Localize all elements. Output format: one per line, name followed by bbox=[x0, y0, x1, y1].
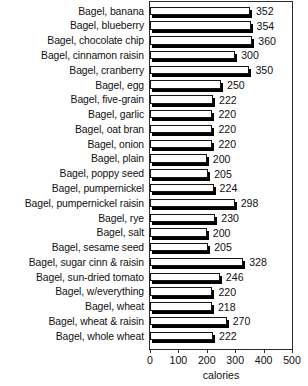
category-label: Bagel, banana bbox=[0, 6, 144, 17]
bar-row: 222 bbox=[150, 331, 292, 346]
bar-value-label: 222 bbox=[219, 94, 237, 106]
category-label: Bagel, pumpernickel raisin bbox=[0, 198, 144, 209]
bar-value-label: 354 bbox=[257, 20, 275, 32]
category-label: Bagel, salt bbox=[0, 227, 144, 238]
category-label: Bagel, garlic bbox=[0, 109, 144, 120]
bar-face bbox=[150, 243, 208, 251]
bar-row: 218 bbox=[150, 302, 292, 317]
bar-value-label: 220 bbox=[218, 138, 236, 150]
bar-value-label: 224 bbox=[220, 182, 238, 194]
category-label: Bagel, onion bbox=[0, 139, 144, 150]
category-label: Bagel, sugar cinn & raisin bbox=[0, 257, 144, 268]
bar-value-label: 300 bbox=[241, 49, 259, 61]
bar-face bbox=[150, 273, 220, 281]
bar-value-label: 205 bbox=[214, 168, 232, 180]
category-label: Bagel, rye bbox=[0, 213, 144, 224]
bar-face bbox=[150, 199, 235, 207]
bar-row: 300 bbox=[150, 51, 292, 66]
bar-face bbox=[150, 66, 249, 74]
bar-face bbox=[150, 258, 243, 266]
x-tick-label: 400 bbox=[255, 354, 273, 366]
bar-row: 352 bbox=[150, 6, 292, 21]
category-label: Bagel, plain bbox=[0, 153, 144, 164]
bar-value-label: 222 bbox=[219, 330, 237, 342]
bar-face bbox=[150, 140, 212, 148]
bar-face bbox=[150, 154, 207, 162]
bar-row: 220 bbox=[150, 124, 292, 139]
bar-row: 220 bbox=[150, 139, 292, 154]
bar-row: 250 bbox=[150, 80, 292, 95]
bar-row: 220 bbox=[150, 110, 292, 125]
bar-row: 224 bbox=[150, 184, 292, 199]
bar-value-label: 220 bbox=[218, 123, 236, 135]
bar-value-label: 218 bbox=[218, 301, 236, 313]
x-tick-label: 0 bbox=[147, 354, 153, 366]
bar-face bbox=[150, 21, 251, 29]
x-tick-label: 200 bbox=[198, 354, 216, 366]
bar-value-label: 298 bbox=[241, 197, 259, 209]
bar-value-label: 250 bbox=[227, 79, 245, 91]
bagel-calories-bar-chart: Bagel, bananaBagel, blueberryBagel, choc… bbox=[0, 0, 308, 386]
bar-value-label: 350 bbox=[255, 64, 273, 76]
bar-face bbox=[150, 7, 250, 15]
bar-value-label: 360 bbox=[258, 35, 276, 47]
bar-row: 222 bbox=[150, 95, 292, 110]
bar-value-label: 352 bbox=[256, 5, 274, 17]
x-tick-mark bbox=[150, 349, 151, 353]
category-axis-labels: Bagel, bananaBagel, blueberryBagel, choc… bbox=[0, 0, 147, 348]
category-label: Bagel, oat bran bbox=[0, 124, 144, 135]
bar-value-label: 200 bbox=[213, 153, 231, 165]
x-tick-label: 100 bbox=[170, 354, 188, 366]
bar-face bbox=[150, 169, 208, 177]
category-label: Bagel, sun-dried tomato bbox=[0, 272, 144, 283]
bar-row: 220 bbox=[150, 287, 292, 302]
category-label: Bagel, blueberry bbox=[0, 20, 144, 31]
category-label: Bagel, cinnamon raisin bbox=[0, 50, 144, 61]
bar-row: 360 bbox=[150, 36, 292, 51]
x-axis: calories 0100200300400500 bbox=[150, 349, 292, 385]
category-label: Bagel, poppy seed bbox=[0, 168, 144, 179]
category-label: Bagel, w/everything bbox=[0, 286, 144, 297]
bar-face bbox=[150, 302, 212, 310]
bar-row: 354 bbox=[150, 21, 292, 36]
bar-face bbox=[150, 80, 221, 88]
bar-value-label: 246 bbox=[226, 271, 244, 283]
bar-row: 230 bbox=[150, 213, 292, 228]
category-label: Bagel, sesame seed bbox=[0, 242, 144, 253]
x-axis-title: calories bbox=[150, 369, 292, 381]
category-label: Bagel, wheat bbox=[0, 301, 144, 312]
bar-value-label: 205 bbox=[214, 241, 232, 253]
bar-face bbox=[150, 214, 215, 222]
x-tick-mark bbox=[264, 349, 265, 353]
bar-row: 205 bbox=[150, 243, 292, 258]
bar-face bbox=[150, 287, 212, 295]
category-label: Bagel, five-grain bbox=[0, 94, 144, 105]
x-tick-mark bbox=[292, 349, 293, 353]
bar-face bbox=[150, 332, 213, 340]
x-tick-mark bbox=[178, 349, 179, 353]
bar-value-label: 220 bbox=[218, 286, 236, 298]
x-tick-label: 500 bbox=[283, 354, 301, 366]
bars-layer: 3523543603003502502222202202202002052242… bbox=[150, 2, 292, 348]
bar-row: 246 bbox=[150, 272, 292, 287]
bar-face bbox=[150, 36, 252, 44]
bar-value-label: 220 bbox=[218, 108, 236, 120]
bar-face bbox=[150, 110, 212, 118]
bar-face bbox=[150, 95, 213, 103]
bar-face bbox=[150, 184, 214, 192]
bar-value-label: 230 bbox=[221, 212, 239, 224]
x-tick-label: 300 bbox=[226, 354, 244, 366]
bar-row: 298 bbox=[150, 198, 292, 213]
bar-row: 205 bbox=[150, 169, 292, 184]
category-label: Bagel, wheat & raisin bbox=[0, 316, 144, 327]
category-label: Bagel, chocolate chip bbox=[0, 35, 144, 46]
bar-value-label: 200 bbox=[213, 227, 231, 239]
bar-row: 200 bbox=[150, 228, 292, 243]
x-tick-mark bbox=[207, 349, 208, 353]
bar-value-label: 328 bbox=[249, 256, 267, 268]
category-label: Bagel, pumpernickel bbox=[0, 183, 144, 194]
bar-row: 350 bbox=[150, 65, 292, 80]
bar-face bbox=[150, 317, 227, 325]
bar-row: 200 bbox=[150, 154, 292, 169]
bar-row: 328 bbox=[150, 257, 292, 272]
